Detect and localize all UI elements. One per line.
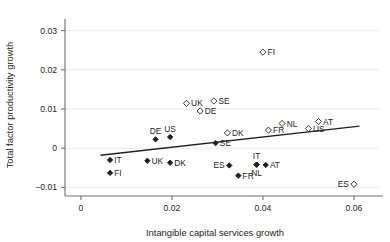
data-point-label: DE bbox=[205, 106, 217, 116]
data-point-label: ES bbox=[338, 179, 350, 189]
data-points-layer: FISEUKDEATNLUSFRDKESUSDESEITUKDKITNLATES… bbox=[107, 47, 357, 189]
data-point: AT bbox=[263, 160, 280, 170]
y-tick-label: 0.01 bbox=[40, 104, 57, 114]
data-point-label: ES bbox=[213, 160, 225, 170]
data-point-label: FR bbox=[273, 125, 284, 135]
filled-diamond-marker bbox=[227, 163, 232, 168]
data-point: DE bbox=[197, 106, 217, 116]
data-point-label: FR bbox=[243, 171, 254, 181]
data-point: US bbox=[164, 124, 176, 140]
filled-diamond-marker bbox=[167, 134, 172, 139]
data-point: IT bbox=[107, 155, 121, 165]
filled-diamond-marker bbox=[213, 140, 218, 145]
filled-diamond-marker bbox=[145, 158, 150, 163]
data-point: DK bbox=[224, 128, 244, 138]
filled-diamond-marker bbox=[167, 160, 172, 165]
y-axis-title: Total factor productivity growth bbox=[4, 42, 15, 169]
data-point-label: FI bbox=[268, 47, 275, 57]
open-diamond-marker bbox=[305, 125, 311, 131]
data-point-label: US bbox=[313, 124, 325, 134]
filled-diamond-marker bbox=[263, 162, 268, 167]
open-diamond-marker bbox=[224, 130, 230, 136]
y-tick-label: 0.03 bbox=[40, 26, 57, 36]
data-point-label: DK bbox=[174, 158, 186, 168]
chart-figure: −0.0100.010.020.03 00.020.040.06 FISEUKD… bbox=[0, 0, 390, 242]
data-point-label: IT bbox=[253, 151, 260, 161]
data-point: DE bbox=[150, 126, 162, 142]
data-point: DK bbox=[167, 158, 186, 168]
data-point: FR bbox=[236, 171, 254, 181]
filled-diamond-marker bbox=[153, 137, 158, 142]
data-point-label: SE bbox=[220, 138, 232, 148]
open-diamond-marker bbox=[211, 98, 217, 104]
filled-diamond-marker bbox=[236, 173, 241, 178]
data-point-label: UK bbox=[191, 98, 203, 108]
y-tick-label: 0 bbox=[52, 143, 57, 153]
data-point: FI bbox=[260, 47, 275, 57]
open-diamond-marker bbox=[265, 127, 271, 133]
filled-diamond-marker bbox=[254, 162, 259, 167]
y-axis-ticks: −0.0100.010.020.03 bbox=[35, 26, 65, 193]
data-point: FR bbox=[265, 125, 284, 135]
filled-diamond-marker bbox=[107, 170, 112, 175]
open-diamond-marker bbox=[260, 49, 266, 55]
x-tick-label: 0 bbox=[79, 203, 84, 213]
y-tick-label: −0.01 bbox=[35, 182, 57, 192]
scatter-plot: −0.0100.010.020.03 00.020.040.06 FISEUKD… bbox=[0, 0, 390, 242]
data-point-label: NL bbox=[287, 119, 298, 129]
x-tick-label: 0.02 bbox=[164, 203, 181, 213]
filled-diamond-marker bbox=[107, 157, 112, 162]
x-axis-ticks: 00.020.040.06 bbox=[79, 196, 363, 213]
data-point-label: AT bbox=[270, 160, 280, 170]
data-point: SE bbox=[211, 96, 230, 106]
data-point-label: FI bbox=[114, 168, 121, 178]
data-point: ES bbox=[213, 160, 232, 170]
data-point: FI bbox=[107, 168, 121, 178]
data-point: US bbox=[305, 124, 325, 134]
x-tick-label: 0.06 bbox=[346, 203, 363, 213]
data-point: UK bbox=[183, 98, 203, 108]
data-point-label: DE bbox=[150, 126, 162, 136]
data-point-label: DK bbox=[232, 128, 244, 138]
y-tick-label: 0.02 bbox=[40, 65, 57, 75]
data-point: ES bbox=[338, 179, 357, 189]
open-diamond-marker bbox=[351, 181, 357, 187]
open-diamond-marker bbox=[183, 100, 189, 106]
data-point: UK bbox=[145, 156, 164, 166]
data-point: SE bbox=[213, 138, 231, 148]
x-tick-label: 0.04 bbox=[255, 203, 272, 213]
x-axis-title: Intangible capital services growth bbox=[146, 227, 284, 238]
data-point-label: IT bbox=[114, 155, 121, 165]
data-point-label: US bbox=[164, 124, 176, 134]
data-point-label: UK bbox=[152, 156, 164, 166]
data-point-label: SE bbox=[218, 96, 230, 106]
